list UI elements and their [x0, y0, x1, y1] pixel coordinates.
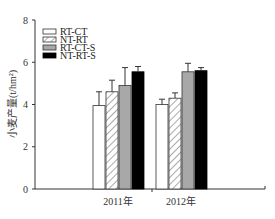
- bar-nt-rt-s-2012: [195, 71, 207, 189]
- y-axis-label: 小麦产量(t/hm²): [6, 70, 19, 138]
- y-tick-label: 6: [23, 57, 28, 68]
- bar-rt-ct-2011: [93, 106, 105, 189]
- y-tick-label: 8: [23, 15, 28, 26]
- y-tick-label: 4: [23, 99, 28, 110]
- legend-label-nt-rt-s: NT-RT-S: [60, 50, 96, 61]
- bar-group-2012: [156, 63, 207, 189]
- bar-group-2011: [93, 67, 144, 190]
- bar-rt-ct-s-2012: [182, 72, 194, 189]
- legend: RT-CT NT-RT RT-CT-S NT-RT-S: [43, 26, 96, 61]
- bar-nt-rt-2011: [106, 92, 118, 189]
- bar-rt-ct-s-2011: [119, 86, 131, 190]
- x-category-label-2012: 2012年: [166, 195, 196, 207]
- bar-rt-ct-2012: [156, 105, 168, 190]
- bar-nt-rt-2012: [169, 98, 181, 189]
- legend-swatch-rt-ct-s: [43, 45, 56, 50]
- bar-nt-rt-s-2011: [132, 72, 144, 189]
- y-tick-labels: 0 2 4 6 8: [23, 15, 28, 195]
- legend-swatch-nt-rt: [43, 37, 56, 42]
- y-tick-label: 0: [23, 184, 28, 195]
- bar-chart: 小麦产量(t/hm²) 0 2 4 6 8: [0, 0, 275, 219]
- legend-swatch-rt-ct: [43, 29, 56, 34]
- x-category-label-2011: 2011年: [103, 195, 133, 207]
- y-tick-label: 2: [23, 141, 28, 152]
- legend-swatch-nt-rt-s: [43, 53, 56, 58]
